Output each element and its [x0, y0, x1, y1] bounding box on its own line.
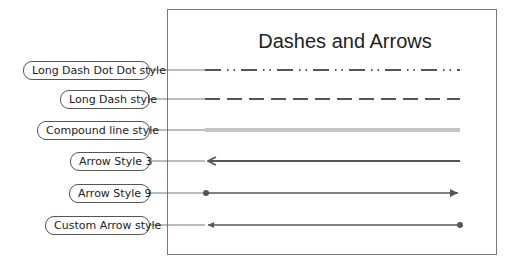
dot-end-icon [457, 222, 463, 228]
label-arrow-style-3: Arrow Style 3 [70, 152, 150, 171]
label-arrow-style-9: Arrow Style 9 [69, 184, 150, 203]
leader-lines [150, 70, 205, 225]
label-long-dash: Long Dash style [60, 90, 150, 109]
label-compound: Compound line style [37, 121, 150, 140]
dot-start-icon [203, 190, 209, 196]
label-custom-arrow: Custom Arrow style [45, 216, 150, 235]
label-long-dash-dot-dot: Long Dash Dot Dot style [23, 61, 150, 80]
